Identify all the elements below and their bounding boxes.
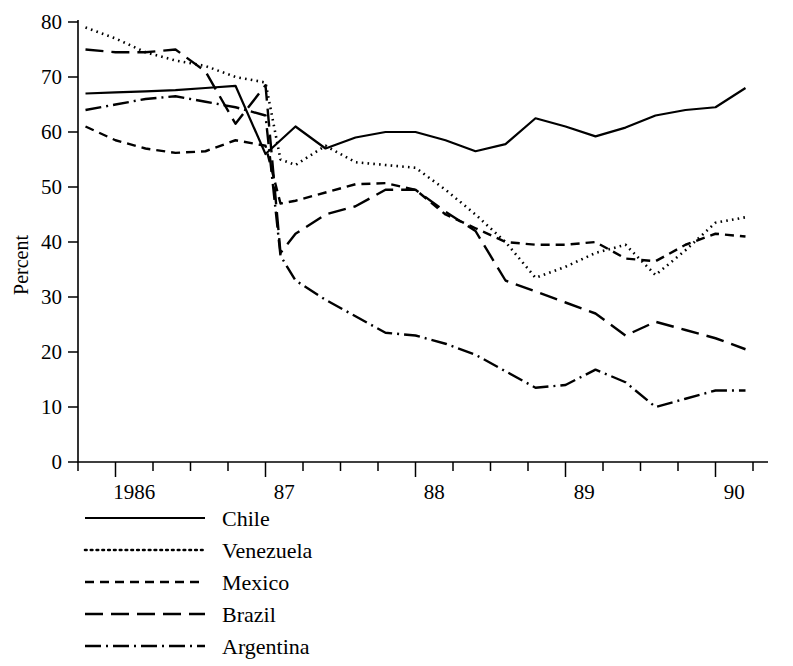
y-tick-label: 30 [41,285,62,309]
y-tick-label: 50 [41,175,62,199]
series-line-mexico [86,127,746,262]
x-tick-label: 87 [274,480,295,504]
legend-label-mexico: Mexico [222,570,289,595]
axis-frame [78,20,768,462]
chart-figure: Percent 01020304050607080 198687888990 C… [0,0,793,666]
legend-label-chile: Chile [222,506,270,531]
y-tick-label: 0 [52,450,63,474]
y-tick-label: 20 [41,340,62,364]
series-line-venezuela [86,28,746,278]
y-tick-label: 40 [41,230,62,254]
legend-label-venezuela: Venezuela [222,538,313,563]
y-tick-label: 80 [41,10,62,34]
y-tick-label: 60 [41,120,62,144]
x-tick-label: 90 [724,480,745,504]
y-tick-label: 10 [41,395,62,419]
x-tick-label: 89 [574,480,595,504]
x-tick-label: 1986 [113,480,155,504]
series-line-chile [86,86,746,154]
legend-label-brazil: Brazil [222,602,276,627]
y-axis-label: Percent [10,235,32,295]
y-tick-label: 70 [41,65,62,89]
series-group [86,28,746,408]
series-line-argentina [86,96,746,407]
y-axis-title: Percent [10,235,32,295]
legend: ChileVenezuelaMexicoBrazilArgentina [85,506,313,659]
chart-svg: Percent 01020304050607080 198687888990 C… [0,0,793,666]
x-tick-group: 198687888990 [78,462,753,504]
series-line-brazil [86,50,746,350]
y-tick-group: 01020304050607080 [41,10,78,474]
x-tick-label: 88 [424,480,445,504]
legend-label-argentina: Argentina [222,634,310,659]
